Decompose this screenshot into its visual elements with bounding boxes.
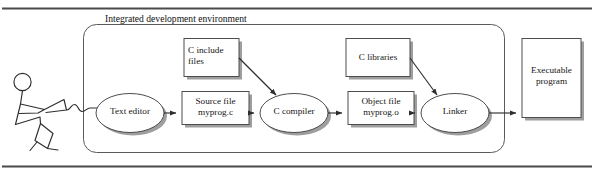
shape-shadows (99, 42, 584, 136)
node-source-file[interactable] (182, 92, 249, 125)
edge-c-include-files-to-c-compiler (239, 58, 276, 95)
diagram-canvas: Integrated development environment Text … (0, 0, 594, 174)
node-executable-program[interactable] (522, 39, 581, 118)
diagram-vector-layer (0, 0, 594, 174)
node-linker[interactable] (421, 94, 489, 133)
programmer-stick-figure (14, 73, 67, 150)
node-object-file[interactable] (348, 92, 414, 125)
edge-c-libraries-to-linker (410, 58, 437, 95)
node-c-libraries[interactable] (346, 39, 410, 77)
diagram-title: Integrated development environment (105, 13, 247, 24)
node-c-include-files[interactable] (184, 39, 239, 77)
node-c-compiler[interactable] (260, 94, 328, 133)
edge-programmer-to-text-editor (67, 105, 98, 112)
node-text-editor[interactable] (96, 94, 164, 133)
